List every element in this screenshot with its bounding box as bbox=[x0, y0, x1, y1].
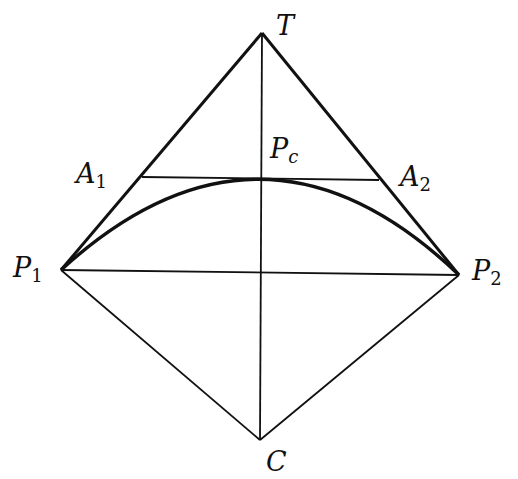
label-a1-text: A bbox=[76, 158, 96, 189]
label-c-text: C bbox=[266, 446, 287, 477]
label-pc: Pc bbox=[270, 135, 298, 166]
label-p2: P2 bbox=[472, 257, 502, 288]
label-t: T bbox=[276, 12, 294, 39]
label-p1: P1 bbox=[13, 254, 43, 285]
label-a2-text: A bbox=[400, 161, 420, 192]
label-pc-subscript: c bbox=[288, 146, 298, 167]
label-a2-subscript: 2 bbox=[420, 174, 431, 195]
radius-line-p1-c bbox=[61, 270, 260, 440]
label-p1-subscript: 1 bbox=[31, 265, 42, 286]
diagram-canvas: T A1 A2 Pc P1 P2 C bbox=[0, 0, 518, 479]
label-a2: A2 bbox=[400, 163, 431, 194]
label-a1: A1 bbox=[76, 160, 107, 191]
axis-line-t-c bbox=[260, 33, 262, 440]
radius-line-p2-c bbox=[260, 275, 459, 440]
label-p1-text: P bbox=[13, 252, 31, 283]
geometry-figure bbox=[0, 0, 518, 479]
label-p2-text: P bbox=[472, 255, 490, 286]
label-a1-subscript: 1 bbox=[96, 171, 107, 192]
label-p2-subscript: 2 bbox=[490, 268, 501, 289]
tangent-line-t-p1 bbox=[61, 33, 262, 270]
label-pc-text: P bbox=[270, 133, 288, 164]
label-c: C bbox=[266, 448, 287, 475]
label-t-text: T bbox=[276, 10, 294, 41]
